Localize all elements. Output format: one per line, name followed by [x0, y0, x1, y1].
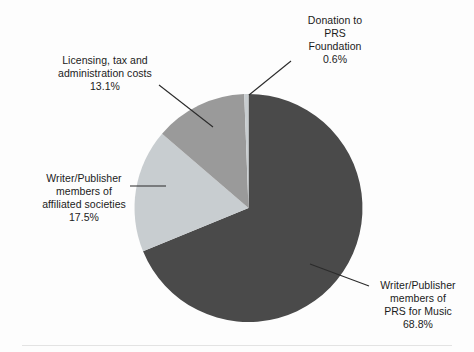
- pie-slice-group: [135, 94, 363, 322]
- leader-line-donation: [249, 61, 291, 95]
- slice-label-donation-to-prs-foundation: Donation to PRS Foundation 0.6%: [275, 14, 395, 66]
- pie-chart-figure: Donation to PRS Foundation 0.6% Licensin…: [0, 0, 474, 352]
- slice-label-prs-for-music: Writer/Publisher members of PRS for Musi…: [366, 279, 470, 331]
- slice-label-licensing-tax-admin-costs: Licensing, tax and administration costs …: [25, 54, 185, 93]
- footer-divider: [22, 345, 452, 346]
- slice-label-affiliated-societies: Writer/Publisher members of affiliated s…: [8, 172, 160, 224]
